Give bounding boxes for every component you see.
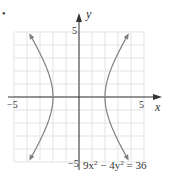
- x-axis-label: x: [154, 100, 161, 114]
- y-tick-max: 5: [72, 25, 77, 36]
- y-tick-min: −5: [68, 158, 79, 169]
- x-tick-min: −5: [7, 99, 18, 110]
- equation-label: 9x2 − 4y2 = 36: [83, 159, 147, 171]
- bullet-marker: •: [2, 8, 6, 19]
- y-axis-arrow-icon: [76, 13, 82, 22]
- hyperbola-graph: • y x 5 −5 −5 5 9x2 − 4y2 = 36: [0, 0, 170, 183]
- x-tick-max: 5: [139, 99, 144, 110]
- y-axis: [76, 13, 82, 170]
- y-axis-label: y: [85, 7, 92, 21]
